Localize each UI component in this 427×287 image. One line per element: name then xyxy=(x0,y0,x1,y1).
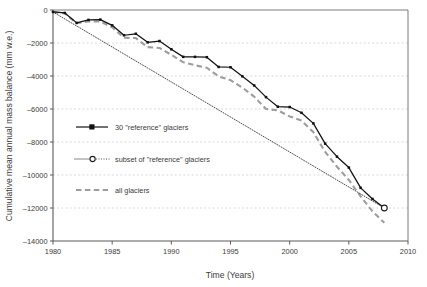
legend-label-subset: subset of "reference" glaciers xyxy=(115,155,210,164)
data-point-marker xyxy=(146,41,149,44)
data-point-marker xyxy=(64,12,67,15)
y-tick-label: 0 xyxy=(43,6,47,15)
x-tick-label: 2000 xyxy=(281,247,297,256)
data-point-marker xyxy=(371,198,374,201)
data-point-marker xyxy=(170,48,173,51)
legend-square-marker-icon xyxy=(89,124,94,129)
x-tick-label: 2010 xyxy=(400,247,416,256)
data-point-marker xyxy=(359,187,362,190)
y-tick-label: –12000 xyxy=(23,204,48,213)
data-point-marker xyxy=(206,56,209,59)
data-point-marker xyxy=(182,56,185,59)
data-point-marker xyxy=(135,33,138,36)
data-point-marker xyxy=(75,22,78,25)
data-point-open-marker xyxy=(381,205,387,211)
legend-label-all-glaciers: all glaciers xyxy=(115,186,150,195)
x-tick-label: 1980 xyxy=(45,247,61,256)
data-point-marker xyxy=(324,142,327,145)
data-point-marker xyxy=(336,155,339,158)
data-point-marker xyxy=(241,75,244,78)
y-tick-label: –10000 xyxy=(23,171,48,180)
data-point-marker xyxy=(158,40,161,43)
data-point-marker xyxy=(348,166,351,169)
data-point-marker xyxy=(52,11,55,14)
glacier-mass-balance-chart: 0–2000–4000–6000–8000–10000–12000–14000 … xyxy=(0,0,427,287)
data-point-marker xyxy=(253,84,256,87)
data-point-marker xyxy=(194,56,197,59)
chart-canvas: 0–2000–4000–6000–8000–10000–12000–14000 … xyxy=(0,0,427,287)
legend-open-circle-marker-icon xyxy=(90,156,95,161)
x-tick-label: 2005 xyxy=(341,247,357,256)
x-tick-label: 1995 xyxy=(222,247,238,256)
data-point-marker xyxy=(300,112,303,115)
data-point-marker xyxy=(288,106,291,109)
data-point-marker xyxy=(217,66,220,69)
x-tick-label: 1990 xyxy=(163,247,179,256)
y-axis-title: Cumulative mean annual mass balance (mm … xyxy=(4,31,14,222)
y-tick-label: –4000 xyxy=(27,72,48,81)
x-axis-title: Time (Years) xyxy=(206,270,255,280)
x-tick-label: 1985 xyxy=(104,247,120,256)
data-point-marker xyxy=(229,66,232,69)
data-point-marker xyxy=(312,122,315,125)
legend-label-reference: 30 "reference" glaciers xyxy=(115,123,189,132)
y-tick-label: –6000 xyxy=(27,105,48,114)
data-point-marker xyxy=(265,96,268,99)
data-point-marker xyxy=(87,19,90,22)
data-point-marker xyxy=(123,34,126,37)
y-tick-label: –8000 xyxy=(27,138,48,147)
data-point-marker xyxy=(99,18,102,21)
data-point-marker xyxy=(111,24,114,27)
y-tick-label: –14000 xyxy=(23,237,48,246)
data-point-marker xyxy=(277,105,280,108)
y-tick-label: –2000 xyxy=(27,39,48,48)
series-subset-markers xyxy=(381,205,387,211)
